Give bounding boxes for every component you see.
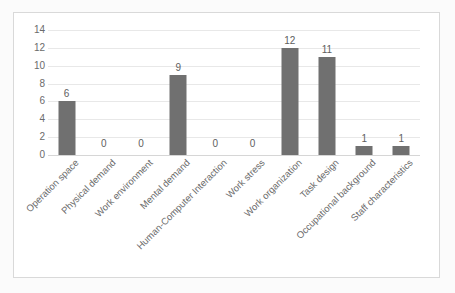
y-axis-tick-label: 2 bbox=[5, 132, 45, 142]
bar-slot: 12 bbox=[271, 30, 308, 155]
bar-value-label: 6 bbox=[64, 88, 70, 99]
bar-value-label: 0 bbox=[213, 138, 219, 149]
bar-value-label: 1 bbox=[399, 133, 405, 144]
bar-chart: 02468101214 600900121111 Operation space… bbox=[0, 0, 455, 293]
y-axis-tick-label: 14 bbox=[5, 25, 45, 35]
bar[interactable] bbox=[58, 101, 75, 155]
bar[interactable] bbox=[356, 146, 373, 155]
bar-slot: 0 bbox=[85, 30, 122, 155]
y-axis-tick-label: 12 bbox=[5, 43, 45, 53]
bar-value-label: 1 bbox=[361, 133, 367, 144]
bar[interactable] bbox=[318, 57, 335, 155]
y-axis-tick-label: 4 bbox=[5, 114, 45, 124]
x-axis: Operation spacePhysical demandWork envir… bbox=[48, 157, 420, 267]
bar-value-label: 11 bbox=[322, 44, 332, 55]
bar-value-label: 12 bbox=[284, 35, 295, 46]
bar-value-label: 0 bbox=[138, 138, 144, 149]
bar[interactable] bbox=[170, 75, 187, 155]
bar-value-label: 0 bbox=[101, 138, 107, 149]
y-axis-tick-label: 10 bbox=[5, 61, 45, 71]
bar-slot: 0 bbox=[122, 30, 159, 155]
bar-slot: 11 bbox=[308, 30, 345, 155]
y-axis: 02468101214 bbox=[0, 30, 45, 155]
bar-slot: 1 bbox=[346, 30, 383, 155]
gridline-0 bbox=[48, 155, 420, 156]
bar-slot: 0 bbox=[197, 30, 234, 155]
bar-value-label: 0 bbox=[250, 138, 256, 149]
y-axis-tick-label: 6 bbox=[5, 96, 45, 106]
y-axis-tick-label: 0 bbox=[5, 150, 45, 160]
bar-value-label: 9 bbox=[175, 62, 181, 73]
bar-slot: 1 bbox=[383, 30, 420, 155]
bar[interactable] bbox=[393, 146, 410, 155]
bar[interactable] bbox=[281, 48, 298, 155]
bar-slot: 6 bbox=[48, 30, 85, 155]
bar-slot: 9 bbox=[160, 30, 197, 155]
y-axis-tick-label: 8 bbox=[5, 79, 45, 89]
bar-slot: 0 bbox=[234, 30, 271, 155]
bars-layer: 600900121111 bbox=[48, 30, 420, 155]
